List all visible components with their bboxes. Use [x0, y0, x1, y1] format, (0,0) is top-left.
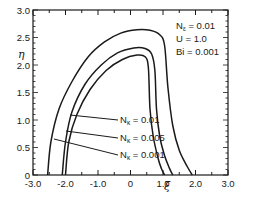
y-tick-label: 1.5: [17, 87, 30, 98]
y-tick-label: 0.5: [17, 142, 30, 153]
annotation-n-epsilon: Nε = 0.01: [176, 20, 215, 32]
x-axis-label: ξ: [164, 180, 171, 193]
legend-label-nk-0-01: Nκ = 0.01: [120, 114, 159, 126]
y-tick-label: 3.0: [17, 5, 30, 16]
y-tick-label: 1.0: [17, 115, 30, 126]
y-tick-label: 2.0: [17, 60, 30, 71]
x-tick-label: 2.0: [189, 178, 202, 189]
leader-line-1: [66, 131, 118, 138]
leader-line-0: [70, 115, 118, 120]
annotation-bi: Bi = 0.001: [176, 46, 219, 57]
x-tick-label: 3.0: [221, 178, 234, 189]
x-tick-label: -2.0: [57, 178, 73, 189]
annotation-u: U = 1.0: [176, 33, 207, 44]
legend-label-nk-0-005: Nκ = 0.005: [120, 132, 165, 144]
parameter-annotations: Nε = 0.01 U = 1.0 Bi = 0.001: [176, 20, 219, 57]
legend-label-nk-0-001: Nκ = 0.001: [120, 149, 165, 161]
y-tick-label: 2.5: [17, 32, 30, 43]
legend-leader-lines: [54, 115, 118, 155]
y-tick-label: 0: [25, 170, 30, 181]
chart: -3.0-2.0-1.001.02.03.000.51.01.52.02.53.…: [0, 0, 253, 215]
y-axis-label: η: [18, 48, 25, 61]
x-tick-label: -1.0: [90, 178, 106, 189]
x-tick-label: 0: [128, 178, 133, 189]
curve-legend: Nκ = 0.01 Nκ = 0.005 Nκ = 0.001: [120, 114, 165, 161]
